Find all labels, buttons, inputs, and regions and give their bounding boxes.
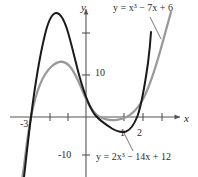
figure-canvas: y x -3 1 2 10 -10 y = x³ − 7x + 6 y = 2x… — [0, 0, 198, 177]
y-tick-label-neg-ten: -10 — [58, 150, 71, 160]
gray-curve-equation-label: y = x³ − 7x + 6 — [113, 3, 173, 13]
y-tick-label-ten: 10 — [95, 68, 105, 78]
leader-line-bottom — [124, 133, 133, 151]
black-curve-equation-label: y = 2x³ − 14x + 12 — [96, 152, 171, 162]
x-tick-label-one: 1 — [120, 128, 125, 138]
y-axis-letter: y — [81, 2, 86, 13]
x-axis-letter: x — [184, 113, 189, 124]
x-tick-label-two: 2 — [137, 128, 142, 138]
x-tick-label-neg3: -3 — [20, 119, 28, 129]
